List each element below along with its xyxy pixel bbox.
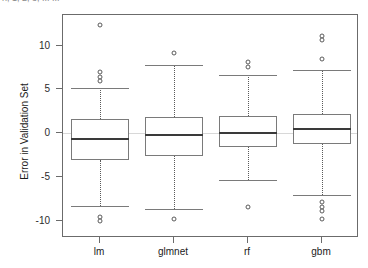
- y-axis-tick-label: -5: [41, 170, 50, 181]
- y-axis-tick-label: 0: [44, 127, 50, 138]
- outlier-point: [320, 38, 325, 43]
- boxplot-group: [63, 15, 359, 236]
- whisker-lower: [322, 144, 323, 195]
- outlier-point: [320, 56, 325, 61]
- median-line: [293, 128, 351, 130]
- x-axis-tick-label-rf: rf: [244, 246, 250, 257]
- y-axis: 1050-5-10: [0, 0, 62, 268]
- whisker-upper: [322, 70, 323, 114]
- whisker-cap-upper: [293, 70, 351, 71]
- y-axis-tick-label: 5: [44, 83, 50, 94]
- outlier-point: [320, 208, 325, 213]
- x-axis-tick-mark: [321, 237, 322, 243]
- boxplot-figure: n, 1, 2, 3, ... ... 1050-5-10 Error in V…: [0, 0, 368, 268]
- x-axis-tick-label-lm: lm: [94, 246, 105, 257]
- outlier-point: [320, 216, 325, 221]
- y-axis-label: Error in Validation Set: [19, 42, 30, 222]
- plot-area: [62, 14, 358, 237]
- x-axis-tick-mark: [247, 237, 248, 243]
- whisker-cap-lower: [293, 195, 351, 196]
- y-axis-tick-label: 10: [39, 39, 50, 50]
- x-axis-tick-mark: [99, 237, 100, 243]
- x-axis-tick-label-gbm: gbm: [311, 246, 330, 257]
- y-axis-tick-label: -10: [36, 214, 50, 225]
- x-axis-tick-label-glmnet: glmnet: [158, 246, 188, 257]
- x-axis-tick-mark: [173, 237, 174, 243]
